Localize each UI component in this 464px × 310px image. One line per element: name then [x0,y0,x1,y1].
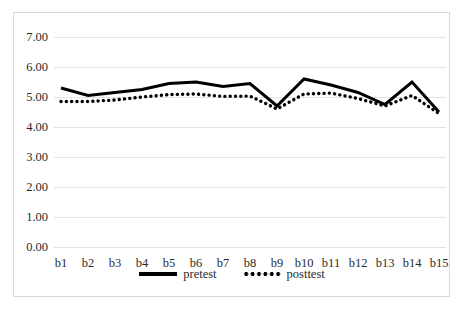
series-layer [61,79,439,114]
chart-legend: pretest posttest [0,268,464,281]
legend-item-pretest[interactable]: pretest [139,268,216,281]
chart-container: 7.006.005.004.003.002.001.000.00 b1b2b3b… [13,12,450,297]
legend-item-posttest[interactable]: posttest [243,268,325,281]
gridlines [54,37,446,247]
legend-label-posttest: posttest [287,268,325,281]
series-line-pretest [61,79,439,112]
legend-label-pretest: pretest [183,268,216,281]
legend-swatch-solid-icon [139,272,177,276]
legend-swatch-dotted-icon [243,272,281,276]
